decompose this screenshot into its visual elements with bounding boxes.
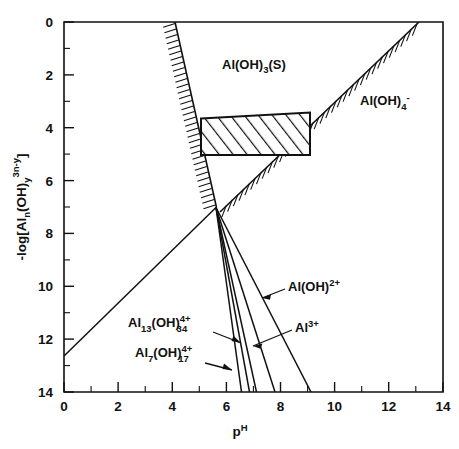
al7-line: [216, 208, 242, 393]
y-axis-title-prefix: -log[Al: [14, 218, 29, 261]
svg-text:pH: pH: [232, 422, 247, 439]
label-al13: Al13(OH)4+34: [128, 313, 191, 334]
y-axis-title-mid: (OH): [14, 183, 29, 212]
x-tick-label: 2: [114, 399, 122, 414]
y-tick-label: 4: [45, 121, 53, 136]
y-axis-ticks: [64, 22, 74, 392]
label-al7: Al7(OH)4+17: [135, 343, 193, 364]
y-axis-title-sub-y: y: [21, 177, 32, 183]
x-tick-label: 4: [169, 399, 177, 414]
y-tick-label: 2: [45, 68, 53, 83]
x-tick-label: 10: [327, 399, 342, 414]
y-axis-title-suffix: ]: [14, 153, 29, 158]
y-axis-tick-labels: 0 2 4 6 8 10 12 14: [38, 15, 54, 400]
label-group-al7: Al7(OH)4+17: [135, 343, 232, 370]
x-tick-label: 12: [381, 399, 396, 414]
label-group-al13: Al13(OH)4+34: [128, 313, 241, 343]
plot-frame: [64, 22, 443, 392]
label-group-aloh2: Al(OH)2+: [262, 277, 340, 300]
label-al3: Al3+: [295, 318, 319, 335]
label-aloh2: Al(OH)2+: [288, 277, 340, 294]
x-tick-label: 14: [435, 399, 451, 414]
plot-svg: 0 2 4 6 8 10 12 14 0 2 4 6 8 10 12 14 pH: [0, 0, 459, 449]
y-tick-label: 6: [45, 174, 53, 189]
svg-text:-log[Aln(OH)y3n-y]: -log[Aln(OH)y3n-y]: [10, 153, 32, 260]
solubility-diagram-figure: 0 2 4 6 8 10 12 14 0 2 4 6 8 10 12 14 pH: [0, 0, 459, 449]
acid-side-hatch-band: [163, 22, 216, 209]
x-axis-tick-labels: 0 2 4 6 8 10 12 14: [60, 399, 451, 414]
x-axis-title-sup: H: [241, 422, 248, 433]
y-axis-title-sup: 3n-y: [10, 157, 21, 177]
label-aluminate: Al(OH)4-: [360, 92, 410, 112]
x-tick-label: 0: [60, 399, 68, 414]
species-lines: [64, 208, 311, 393]
outer-monomer-line: [216, 208, 311, 393]
label-aluminum-hydroxide-solid: Al(OH)3(S): [222, 57, 286, 75]
region-labels: Al(OH)3(S) Al(OH)4-: [222, 57, 410, 112]
x-axis-title: pH: [232, 422, 247, 439]
y-tick-label: 0: [45, 15, 53, 30]
low-slope-boundary-line: [64, 208, 216, 357]
natural-water-box: [201, 113, 310, 156]
x-axis-ticks: [64, 382, 443, 392]
y-axis-title: -log[Aln(OH)y3n-y]: [10, 153, 32, 260]
al13-line: [216, 208, 250, 393]
leader-aloh2: [262, 289, 285, 298]
y-tick-label: 12: [38, 332, 53, 347]
x-tick-label: 6: [223, 399, 231, 414]
leader-arrow-al7: [223, 364, 233, 371]
y-tick-label: 14: [38, 385, 54, 400]
x-tick-label: 8: [277, 399, 285, 414]
y-tick-label: 8: [45, 226, 53, 241]
al3-line: [216, 208, 257, 393]
y-tick-label: 10: [38, 279, 53, 294]
x-axis-title-base: p: [232, 424, 240, 439]
